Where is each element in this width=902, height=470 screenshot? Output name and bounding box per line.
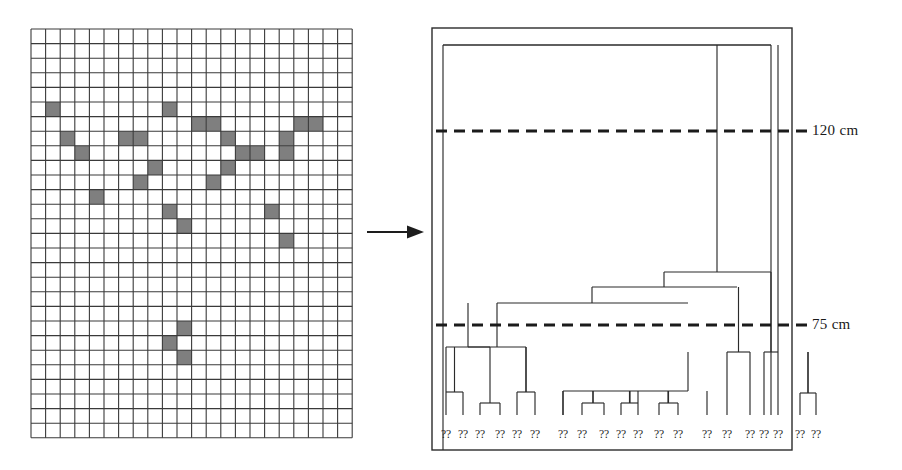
dendrogram-leaf-label: ?? [773,428,783,440]
presence-absence-grid [31,29,352,438]
grid-cell-filled [265,204,280,219]
grid-cell-filled [308,117,323,132]
dendrogram-leaf-label: ?? [475,428,485,440]
grid-cell-filled [60,131,75,146]
grid-cell-filled [177,219,192,234]
dendrogram-leaf-label: ?? [673,428,683,440]
dendrogram-leaf-label: ?? [616,428,626,440]
dendrogram-leaf-label: ?? [745,428,755,440]
grid-cell-filled [89,190,104,205]
dendrogram-leaf-label: ?? [558,428,568,440]
grid-cell-filled [206,175,221,190]
grid-cell-filled [148,160,163,175]
grid-cell-filled [46,102,61,117]
grid-cell-filled [279,233,294,248]
grid-cell-filled [192,117,207,132]
dendrogram-leaf-label: ?? [633,428,643,440]
grid-cell-filled [177,321,192,336]
dendrogram-leaf-label: ?? [759,428,769,440]
dendrogram-leaf-label: ?? [512,428,522,440]
dendrogram-leaf-label: ?? [702,428,712,440]
dendrogram-leaf-label: ?? [795,428,805,440]
grid-cell-filled [294,117,309,132]
dendrogram-leaf-label: ?? [722,428,732,440]
grid-cell-filled [119,131,134,146]
grid-cell-filled [162,102,177,117]
grid-cell-filled [221,131,236,146]
dendrogram-leaf-label: ?? [458,428,468,440]
grid-cell-filled [279,131,294,146]
dendrogram-leaf-label: ?? [811,428,821,440]
dendrogram-leaf-label: ?? [599,428,609,440]
grid-cell-filled [221,160,236,175]
grid-cell-filled [133,175,148,190]
grid-cell-filled [162,204,177,219]
grid-cell-filled [162,336,177,351]
figure-root: ????????????????????????????????????????… [0,0,902,470]
grid-cell-filled [279,146,294,161]
grid-cell-filled [235,146,250,161]
dendrogram-leaf-label: ?? [530,428,540,440]
grid-cell-filled [177,350,192,365]
figure-canvas: ???????????????????????????????????????? [0,0,902,470]
cut-line-120-label: 120 cm [812,122,858,139]
dendrogram-leaf-label: ?? [577,428,587,440]
arrow-head-icon [407,226,424,239]
dendrogram-leaf-label: ?? [495,428,505,440]
grid-cell-filled [75,146,90,161]
grid-cell-filled [206,117,221,132]
grid-cell-filled [133,131,148,146]
dendrogram: ???????????????????????????????????????? [432,28,821,450]
dendrogram-leaf-label: ?? [441,428,451,440]
dendrogram-leaf-label: ?? [654,428,664,440]
grid-cell-filled [250,146,265,161]
cut-line-75-label: 75 cm [812,316,851,333]
transform-arrow [367,226,424,239]
dendrogram-box [432,28,792,450]
